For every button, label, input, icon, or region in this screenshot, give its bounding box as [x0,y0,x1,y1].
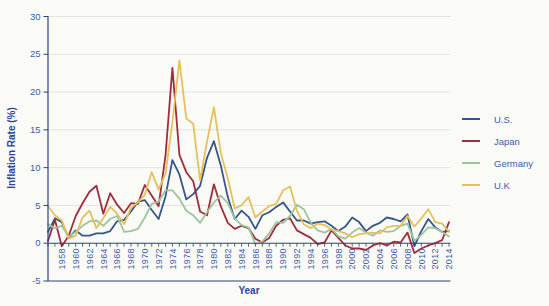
series-lines [48,60,449,253]
y-tick-label: -5 [32,275,40,286]
axes [48,16,451,281]
y-tick-label: 30 [30,11,41,22]
legend-line-swatch-uk [462,184,480,186]
x-tick-labels: 1958196019621964196619681970197219741976… [57,248,454,269]
legend-label-us: U.S. [494,114,512,125]
y-tick-label: 15 [30,124,41,135]
x-tick-label: 1978 [195,248,205,269]
x-tick-label: 1964 [99,248,109,269]
y-tick-label: 10 [30,162,41,173]
series-line-uk [48,60,449,238]
x-tick-label: 2000 [347,248,357,269]
x-tick-label: 2012 [430,248,440,269]
x-tick-label: 1982 [223,248,233,269]
legend-item-uk: U.K [462,174,548,196]
x-tick-label: 1976 [182,248,192,269]
x-tick-label: 2014 [444,248,454,269]
x-tick-label: 1958 [57,248,67,269]
x-tick-label: 1968 [126,248,136,269]
legend-label-germany: Germany [494,158,533,169]
x-tick-label: 1992 [292,248,302,269]
legend-line-swatch-us [462,118,480,120]
x-tick-label: 1972 [154,248,164,269]
legend-item-us: U.S. [462,108,548,130]
legend-item-japan: Japan [462,130,548,152]
y-axis-title: Inflation Rate (%) [6,107,17,189]
y-tick-label: 5 [35,200,40,211]
x-tick-label: 1974 [168,248,178,269]
legend-line-swatch-germany [462,162,480,164]
legend: U.S. Japan Germany U.K [462,108,548,196]
legend-item-germany: Germany [462,152,548,174]
x-tick-label: 1962 [85,248,95,269]
x-tick-label: 2004 [375,248,385,269]
x-tick-label: 2008 [403,248,413,269]
x-axis-title: Year [48,285,450,296]
x-tick-label: 2010 [417,248,427,269]
legend-label-uk: U.K [494,180,510,191]
x-tick-label: 1988 [264,248,274,269]
x-tick-label: 1966 [112,248,122,269]
gridlines [48,17,451,206]
x-tick-label: 1998 [334,248,344,269]
y-tick-label: 20 [30,86,41,97]
y-tick-label: 0 [35,237,40,248]
legend-label-japan: Japan [494,136,520,147]
x-tick-label: 1984 [237,248,247,269]
y-tick-label: 25 [30,48,41,59]
x-tick-label: 1986 [251,248,261,269]
x-tick-label: 2002 [361,248,371,269]
x-tick-label: 1980 [209,248,219,269]
series-line-us [48,141,449,246]
legend-line-swatch-japan [462,140,480,142]
x-tick-label: 1960 [71,248,81,269]
x-tick-label: 1994 [306,248,316,269]
x-tick-label: 1996 [320,248,330,269]
series-line-japan [48,68,449,253]
x-tick-label: 1990 [278,248,288,269]
inflation-figure: 302520151050-519581960196219641966196819… [0,0,549,306]
y-tick-labels: 302520151050-5 [30,11,48,287]
x-tick-label: 2006 [389,248,399,269]
x-tick-label: 1970 [140,248,150,269]
